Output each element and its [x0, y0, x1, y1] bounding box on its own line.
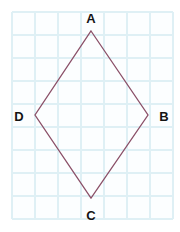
vertex-label-c: C	[86, 209, 96, 222]
vertex-label-a: A	[86, 12, 96, 25]
vertex-label-b: B	[159, 110, 169, 123]
rhombus-shape	[0, 0, 180, 232]
geometry-figure: ABCD	[0, 0, 180, 232]
rhombus-outline	[35, 31, 148, 198]
vertex-label-d: D	[14, 110, 24, 123]
